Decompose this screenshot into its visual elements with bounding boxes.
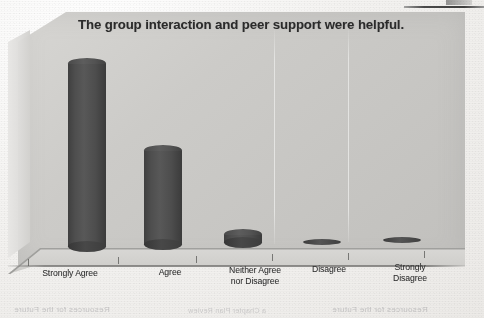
axis-tick-5 xyxy=(424,251,425,258)
bar-0[interactable] xyxy=(68,58,106,252)
chart-title: The group interaction and peer support w… xyxy=(78,17,470,32)
bar-4[interactable] xyxy=(383,237,421,243)
gridline-1 xyxy=(348,26,349,242)
bar-cap xyxy=(383,237,421,243)
bar-body xyxy=(68,64,106,247)
axis-tick-2 xyxy=(196,256,197,263)
axis-tick-0 xyxy=(28,259,29,266)
category-label-1: Agree xyxy=(140,267,200,278)
category-label-2: Neither Agreenor Disagree xyxy=(210,265,300,286)
axis-tick-3 xyxy=(272,254,273,261)
bar-body xyxy=(144,151,182,245)
bar-1[interactable] xyxy=(144,145,182,250)
category-label-3: Disagree xyxy=(292,264,366,275)
category-label-line1: Strongly Agree xyxy=(42,268,98,278)
bar-foot xyxy=(144,239,182,250)
category-label-line1: Agree xyxy=(159,267,182,277)
category-label-line2: nor Disagree xyxy=(231,276,280,286)
category-label-line1: Disagree xyxy=(312,264,346,274)
gridline-0 xyxy=(274,26,275,244)
axis-tick-4 xyxy=(348,253,349,260)
category-label-4: StronglyDisagree xyxy=(368,262,452,283)
bar-2[interactable] xyxy=(224,229,262,247)
bar-3[interactable] xyxy=(303,239,341,245)
category-label-line1: Strongly xyxy=(394,262,425,272)
category-label-line1: Neither Agree xyxy=(229,265,281,275)
bar-foot xyxy=(224,237,262,248)
axis-tick-1 xyxy=(118,257,119,264)
chart-left-wall xyxy=(8,30,30,258)
category-label-0: Strongly Agree xyxy=(25,268,115,279)
category-label-line2: Disagree xyxy=(393,273,427,283)
bar-foot xyxy=(68,241,106,252)
bar-chart: The group interaction and peer support w… xyxy=(0,0,484,318)
bar-cap xyxy=(303,239,341,245)
